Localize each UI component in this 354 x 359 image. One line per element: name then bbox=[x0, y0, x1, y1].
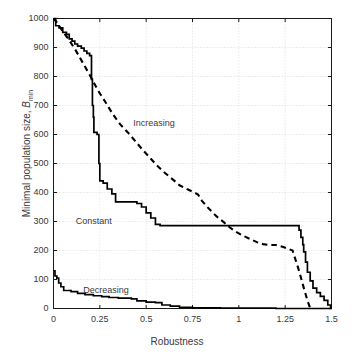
x-tick-label: 0.5 bbox=[126, 314, 166, 324]
y-tick-label: 0 bbox=[2, 303, 49, 313]
x-tick-label: 1.25 bbox=[265, 314, 305, 324]
x-axis-title: Robustness bbox=[0, 336, 354, 347]
plot-canvas bbox=[0, 0, 354, 359]
y-axis-title-text: Minimal population size, bbox=[21, 111, 32, 218]
x-tick-label: 0.75 bbox=[173, 314, 213, 324]
annotation-decreasing: Decreasing bbox=[83, 285, 129, 295]
y-tick-label: 1000 bbox=[2, 13, 49, 23]
x-tick-label: 1.5 bbox=[312, 314, 352, 324]
x-tick-label: 1 bbox=[219, 314, 259, 324]
y-tick-label: 100 bbox=[2, 274, 49, 284]
x-tick-label: 0.25 bbox=[80, 314, 120, 324]
y-axis-title-symbol: B bbox=[21, 101, 32, 108]
y-axis-title: Minimal population size, Bmin bbox=[21, 54, 34, 254]
chart-figure: 01002003004005006007008009001000 00.250.… bbox=[0, 0, 354, 359]
y-axis-title-subscript: min bbox=[27, 90, 34, 101]
y-tick-label: 900 bbox=[2, 42, 49, 52]
annotation-constant: Constant bbox=[76, 216, 112, 226]
annotation-increasing: Increasing bbox=[133, 118, 175, 128]
x-tick-label: 0 bbox=[34, 314, 74, 324]
grid-lines bbox=[54, 19, 332, 309]
